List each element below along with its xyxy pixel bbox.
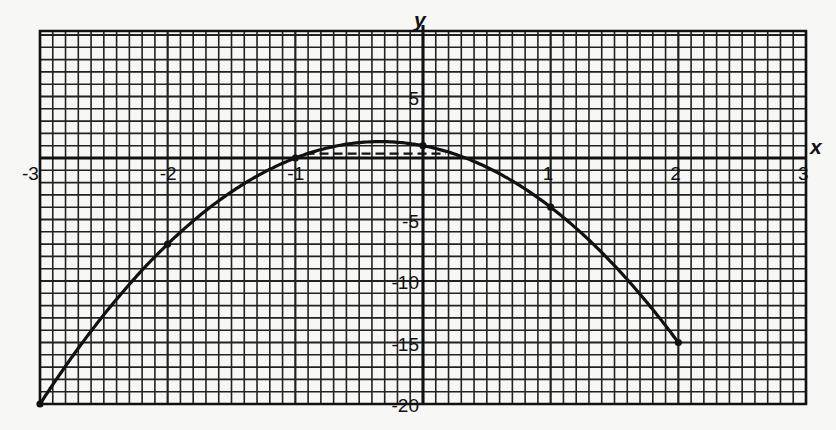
data-point bbox=[547, 204, 554, 211]
x-tick-label: -2 bbox=[160, 163, 177, 184]
data-point bbox=[164, 241, 171, 248]
x-tick-label: 1 bbox=[543, 163, 554, 184]
data-point bbox=[419, 142, 426, 149]
x-tick-label: -3 bbox=[22, 163, 39, 184]
data-point bbox=[675, 339, 682, 346]
y-tick-label: -5 bbox=[402, 211, 419, 232]
x-tick-label: 2 bbox=[670, 163, 681, 184]
y-tick-label: -20 bbox=[392, 395, 419, 416]
y-tick-label: -10 bbox=[392, 272, 419, 293]
x-tick-label: -1 bbox=[287, 163, 304, 184]
y-axis-label: y bbox=[413, 8, 427, 31]
axes: xy bbox=[40, 8, 823, 404]
y-tick-label: 5 bbox=[408, 88, 419, 109]
graph: xy -3-2-11235-5-10-15-20 bbox=[0, 0, 836, 430]
y-tick-label: -15 bbox=[392, 334, 419, 355]
x-axis-label: x bbox=[809, 135, 823, 158]
data-point bbox=[36, 400, 43, 407]
data-point bbox=[292, 154, 299, 161]
x-tick-label: 3 bbox=[798, 163, 809, 184]
